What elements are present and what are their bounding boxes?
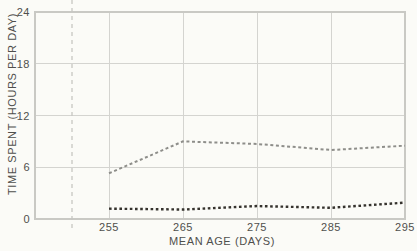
y-tick-label: 0: [23, 213, 30, 225]
y-tick-label: 18: [17, 58, 30, 70]
x-tick-label: 255: [99, 221, 119, 233]
x-tick-label: 285: [321, 221, 341, 233]
x-tick-label: 265: [173, 221, 193, 233]
y-axis-title: TIME SPENT (HOURS PER DAY): [6, 13, 18, 195]
x-axis-title: MEAN AGE (DAYS): [169, 235, 275, 247]
y-tick-label: 12: [17, 110, 30, 122]
x-tick-label: 275: [247, 221, 267, 233]
y-tick-label: 6: [23, 161, 30, 173]
line-chart: 25526527528529506121824: [0, 0, 417, 251]
chart-figure: 25526527528529506121824 TIME SPENT (HOUR…: [0, 0, 417, 251]
x-tick-label: 295: [395, 221, 415, 233]
y-tick-label: 24: [17, 6, 30, 18]
